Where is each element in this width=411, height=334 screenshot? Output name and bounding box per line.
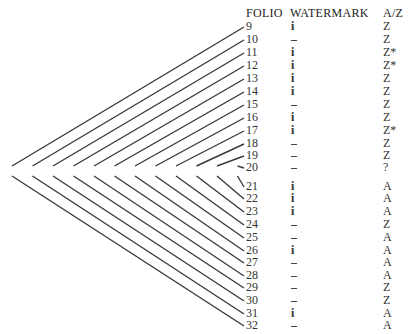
az-marker: Z [383, 20, 390, 32]
watermark-mark: – [291, 256, 297, 268]
folio-number: 17 [246, 124, 258, 136]
folio-number: 27 [246, 256, 258, 268]
watermark-mark: – [291, 281, 297, 293]
az-marker: Z [383, 33, 390, 45]
az-marker: Z [383, 294, 390, 306]
folio-number: 25 [246, 231, 258, 243]
leaf-line-bottom [238, 176, 245, 187]
az-marker: Z* [383, 46, 396, 58]
leaf-line-bottom [176, 176, 244, 225]
folio-number: 15 [246, 98, 258, 110]
leaf-line-top [74, 66, 245, 166]
watermark-mark: i [291, 85, 294, 97]
folio-number: 14 [246, 85, 258, 97]
watermark-mark: i [291, 205, 294, 217]
watermark-mark: i [291, 59, 294, 71]
quire-collation-diagram: FOLIO WATERMARK A/Z 9iZ10–Z11iZ*12iZ*13i… [0, 0, 411, 334]
folio-number: 32 [246, 319, 258, 331]
folio-number: 9 [246, 20, 252, 32]
leaf-line-top [53, 53, 244, 166]
folio-number: 16 [246, 111, 258, 123]
watermark-mark: – [291, 98, 297, 110]
az-marker: Z [383, 98, 390, 110]
folio-number: 22 [246, 192, 258, 204]
watermark-mark: i [291, 192, 294, 204]
az-marker: A [383, 192, 392, 204]
folio-number: 13 [246, 72, 258, 84]
az-marker: Z [383, 72, 390, 84]
folio-number: 29 [246, 281, 258, 293]
leaf-line-top [12, 27, 244, 166]
bifolia-lines [0, 0, 411, 334]
watermark-mark: i [291, 72, 294, 84]
folio-number: 20 [246, 161, 258, 173]
az-marker: Z [383, 111, 390, 123]
folio-number: 30 [246, 294, 258, 306]
leaf-line-bottom [156, 176, 245, 238]
az-marker: A [383, 205, 392, 217]
az-marker: Z [383, 281, 390, 293]
az-marker: A [383, 319, 392, 331]
leaf-line-bottom [197, 176, 245, 212]
watermark-mark: – [291, 33, 297, 45]
watermark-mark: i [291, 124, 294, 136]
watermark-mark: – [291, 231, 297, 243]
watermark-mark: i [291, 20, 294, 32]
folio-number: 12 [246, 59, 258, 71]
leaf-line-bottom [115, 176, 245, 263]
leaf-line-top [238, 166, 245, 168]
az-marker: Z [383, 85, 390, 97]
watermark-header: WATERMARK [290, 6, 369, 21]
leaf-line-top [135, 105, 244, 166]
watermark-mark: i [291, 111, 294, 123]
leaf-line-bottom [53, 176, 244, 301]
leaf-line-bottom [94, 176, 244, 276]
leaf-line-top [94, 79, 244, 166]
az-marker: Z* [383, 59, 396, 71]
az-marker: ? [383, 161, 388, 173]
az-marker: Z* [383, 124, 396, 136]
folio-number: 24 [246, 218, 258, 230]
leaf-line-top [197, 144, 245, 166]
watermark-mark: i [291, 46, 294, 58]
folio-number: 10 [246, 33, 258, 45]
watermark-mark: – [291, 319, 297, 331]
az-marker: Z [383, 218, 390, 230]
leaf-line-bottom [33, 176, 245, 314]
watermark-mark: – [291, 218, 297, 230]
folio-number: 23 [246, 205, 258, 217]
az-marker: A [383, 231, 392, 243]
watermark-mark: – [291, 294, 297, 306]
watermark-mark: – [291, 161, 297, 173]
az-marker: A [383, 256, 392, 268]
folio-number: 11 [246, 46, 258, 58]
leaf-line-top [217, 156, 244, 166]
leaf-line-top [156, 118, 245, 166]
